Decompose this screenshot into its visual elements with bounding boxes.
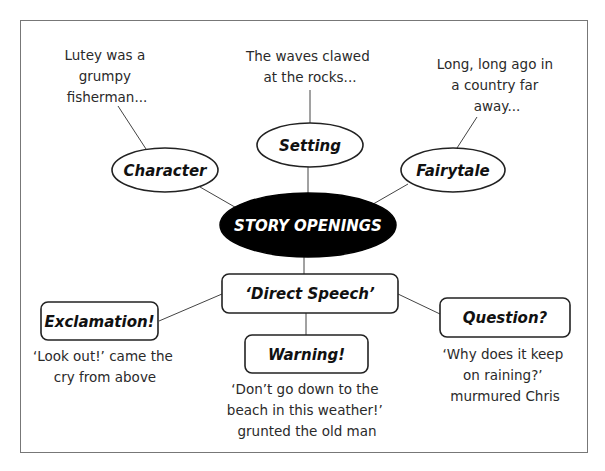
node-setting-label: Setting — [279, 137, 341, 155]
node-warning-label: Warning! — [268, 346, 345, 364]
node-setting: Setting — [257, 123, 363, 167]
story-openings-diagram: Lutey was a grumpy fisherman... The wave… — [0, 0, 605, 471]
node-question-label: Question? — [463, 309, 548, 327]
node-fairytale-label: Fairytale — [416, 162, 490, 180]
center-label: STORY OPENINGS — [234, 217, 382, 235]
node-exclamation-label: Exclamation! — [45, 313, 155, 331]
node-warning: Warning! — [245, 335, 368, 373]
node-fairytale: Fairytale — [401, 148, 505, 192]
node-direct-speech-label: ‘Direct Speech’ — [245, 285, 375, 303]
node-character: Character — [112, 148, 218, 192]
node-exclamation: Exclamation! — [41, 302, 158, 340]
node-character-label: Character — [124, 162, 209, 180]
node-question: Question? — [440, 298, 570, 337]
warning-example: ‘Don’t go down to the beach in this weat… — [227, 381, 387, 439]
node-direct-speech: ‘Direct Speech’ — [222, 274, 398, 313]
node-story-openings: STORY OPENINGS — [220, 193, 396, 257]
